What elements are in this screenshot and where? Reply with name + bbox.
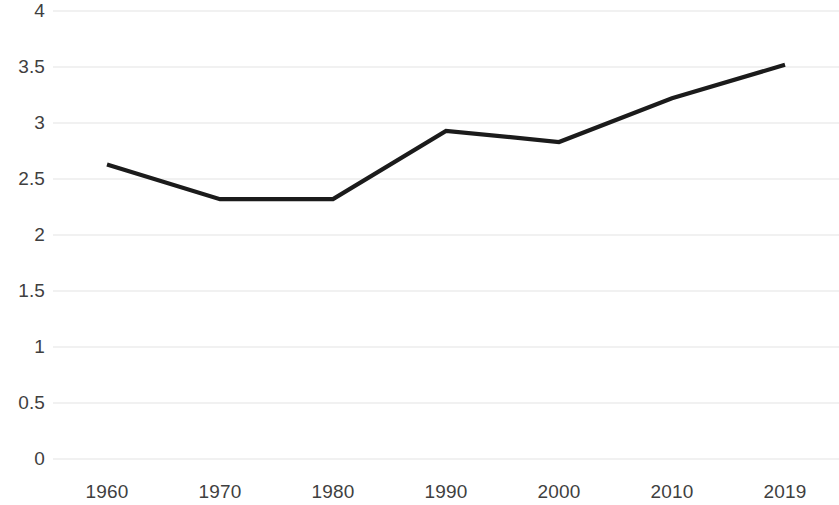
plot-area	[53, 0, 839, 470]
x-tick-label: 1990	[424, 482, 467, 502]
x-tick-label: 1980	[311, 482, 354, 502]
x-tick-label: 2019	[763, 482, 806, 502]
line-chart: 43.532.521.510.50 1960197019801990200020…	[0, 0, 839, 505]
y-tick-label: 1.5	[0, 281, 45, 300]
x-tick-label: 1970	[198, 482, 241, 502]
series-layer	[53, 0, 839, 470]
y-tick-label: 3.5	[0, 57, 45, 76]
y-tick-label: 0	[0, 449, 45, 468]
data-line-series-1	[107, 65, 785, 199]
y-tick-label: 0.5	[0, 393, 45, 412]
y-tick-label: 3	[0, 113, 45, 132]
y-tick-label: 4	[0, 1, 45, 20]
y-tick-label: 2.5	[0, 169, 45, 188]
y-tick-label: 1	[0, 337, 45, 356]
y-tick-label: 2	[0, 225, 45, 244]
x-tick-label: 1960	[85, 482, 128, 502]
y-axis: 43.532.521.510.50	[0, 0, 45, 470]
x-axis: 1960197019801990200020102019	[53, 474, 839, 505]
x-tick-label: 2000	[537, 482, 580, 502]
x-tick-label: 2010	[650, 482, 693, 502]
